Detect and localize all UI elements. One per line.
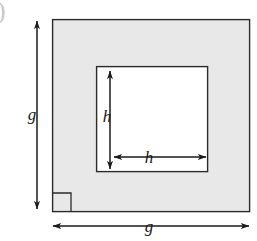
dimension-label-inner-height: h [103,108,112,125]
dimension-label-inner-width: h [145,149,154,166]
geometry-figure: ) g g h h [0,0,257,241]
figure-canvas [0,0,257,241]
dimension-label-outer-width: g [145,218,154,235]
dimension-label-outer-height: g [28,106,37,123]
